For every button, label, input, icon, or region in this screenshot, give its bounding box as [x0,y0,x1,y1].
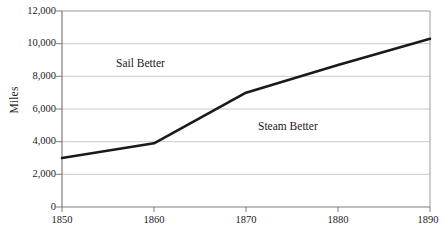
x-tick-label-1850: 1850 [32,214,92,225]
annotation-steam-better: Steam Better [258,120,318,132]
x-axis-tick-labels: 1850 1860 1870 1880 1890 [0,0,447,238]
x-tick-label-1870: 1870 [216,214,276,225]
annotation-sail-better: Sail Better [116,57,165,69]
x-tick-label-1880: 1880 [308,214,368,225]
x-tick-label-1860: 1860 [124,214,184,225]
x-tick-label-1890: 1890 [398,214,447,225]
line-chart: Miles 12,000 10,000 8,000 6,000 4,000 2,… [0,0,447,238]
